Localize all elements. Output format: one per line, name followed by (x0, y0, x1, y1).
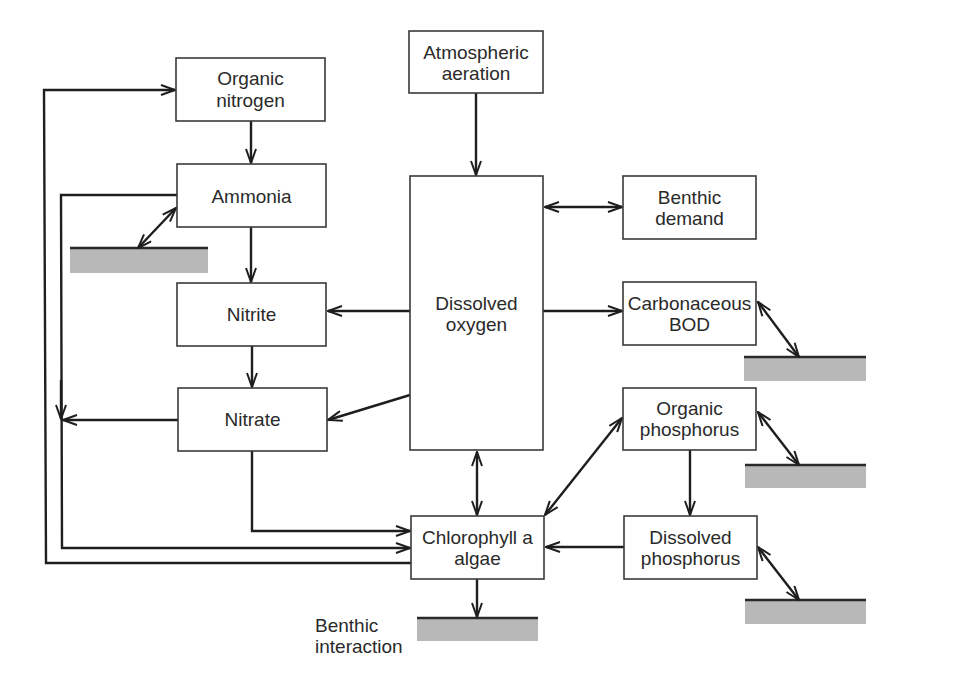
sediment-bar-benthic-interaction (417, 618, 538, 641)
node-label: Dissolved (435, 293, 517, 314)
label-line: interaction (315, 636, 403, 657)
node-label: Organic (656, 398, 723, 419)
benthic-interaction-label: Benthic interaction (315, 615, 403, 657)
node-atmospheric-aeration: Atmospheric aeration (409, 31, 543, 93)
node-dissolved-phosphorus: Dissolved phosphorus (624, 516, 757, 579)
node-label: Chlorophyll a (422, 527, 533, 548)
node-label: Atmospheric (423, 42, 529, 63)
node-label: nitrogen (216, 90, 285, 111)
label-line: Benthic (315, 615, 378, 636)
edge-do-to-nitrate (328, 395, 410, 420)
node-label: phosphorus (640, 419, 739, 440)
sediment-bar-dissolved-phosphorus (745, 600, 866, 624)
node-label: Nitrate (225, 409, 281, 430)
node-nitrate: Nitrate (178, 388, 327, 451)
node-label: Carbonaceous (628, 293, 752, 314)
sediment-bar-organic-phosphorus (745, 465, 866, 488)
node-label: Nitrite (227, 304, 277, 325)
edge-ammonia-sediment (138, 208, 176, 248)
edge-organic-p-sediment (758, 412, 799, 465)
node-chlorophyll-algae: Chlorophyll a algae (411, 516, 544, 579)
sediment-bar-carbonaceous-bod (744, 357, 866, 381)
node-ammonia: Ammonia (177, 164, 326, 227)
node-label: oxygen (446, 314, 507, 335)
node-label: demand (655, 208, 724, 229)
node-nitrite: Nitrite (177, 283, 326, 346)
node-organic-phosphorus: Organic phosphorus (623, 388, 756, 450)
node-label: phosphorus (641, 548, 740, 569)
node-label: Dissolved (649, 527, 731, 548)
water-quality-diagram: Organic nitrogen Ammonia Nitrite Nitrate… (0, 0, 973, 683)
node-label: aeration (442, 63, 511, 84)
node-dissolved-oxygen: Dissolved oxygen (410, 176, 543, 450)
edge-dissolved-p-sediment (758, 547, 799, 600)
node-label: algae (454, 548, 501, 569)
node-label: Organic (217, 68, 284, 89)
node-benthic-demand: Benthic demand (623, 176, 756, 239)
node-label: Benthic (658, 187, 721, 208)
node-label: Ammonia (211, 186, 292, 207)
sediment-bar-ammonia (70, 248, 208, 273)
edge-nitrate-to-chlorophyll (252, 451, 410, 531)
edge-bod-sediment (758, 302, 799, 357)
node-organic-nitrogen: Organic nitrogen (176, 58, 325, 121)
node-carbonaceous-bod: Carbonaceous BOD (623, 282, 756, 345)
edge-organic-p-chlorophyll (545, 418, 622, 515)
node-label: BOD (669, 314, 710, 335)
